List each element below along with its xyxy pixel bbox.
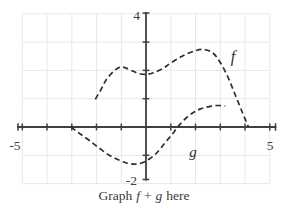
axis-tick-labels: 4 -2 -5 5 (9, 8, 273, 188)
caption-word-graph: Graph (98, 188, 132, 204)
caption: Graph f + g here (0, 188, 288, 204)
axes (18, 13, 276, 180)
graph-canvas: 4 -2 -5 5 f g (0, 0, 288, 214)
curve-g-label: g (189, 144, 197, 160)
curve-labels: f g (189, 48, 238, 160)
caption-f: f (136, 188, 140, 204)
y-min-label: -2 (126, 173, 137, 188)
y-max-label: 4 (133, 8, 140, 23)
x-min-label: -5 (9, 138, 20, 153)
caption-g: g (156, 188, 163, 204)
x-max-label: 5 (267, 138, 274, 153)
curve-f (95, 49, 248, 126)
worksheet-graph: 4 -2 -5 5 f g Graph f + g here (0, 0, 288, 214)
curves (71, 49, 248, 164)
curve-f-label: f (231, 48, 238, 66)
caption-plus-sign: + (144, 188, 152, 204)
caption-word-here: here (166, 188, 189, 204)
